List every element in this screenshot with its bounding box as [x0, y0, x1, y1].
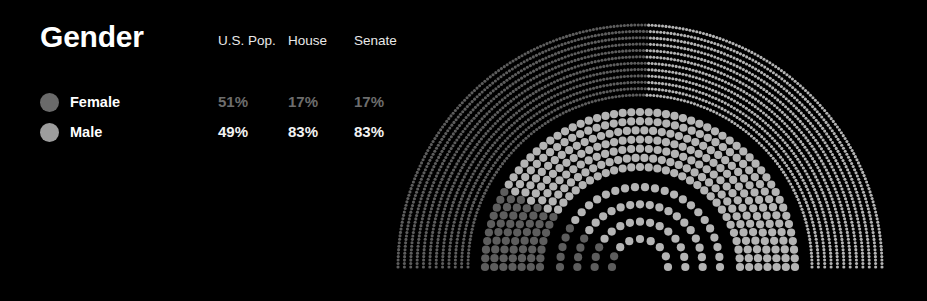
- arc-dot: [805, 148, 808, 151]
- arc-dot: [789, 170, 792, 173]
- arc-dot: [467, 113, 470, 116]
- arc-dot: [478, 84, 481, 87]
- arc-dot: [520, 160, 528, 168]
- arc-dot: [848, 191, 851, 194]
- arc-dot: [636, 218, 644, 226]
- arc-dot: [500, 91, 503, 94]
- arc-dot: [504, 104, 507, 107]
- arc-dot: [861, 255, 864, 258]
- arc-dot: [787, 135, 790, 138]
- arc-dot: [699, 263, 707, 271]
- arc-dot: [827, 234, 830, 237]
- arc-dot: [828, 175, 831, 178]
- arc-dot: [609, 77, 612, 80]
- arc-dot: [733, 107, 736, 110]
- arc-dot: [847, 156, 850, 159]
- arc-dot: [520, 100, 523, 103]
- arc-dot: [557, 58, 560, 61]
- arc-dot: [808, 191, 811, 194]
- arc-dot: [718, 206, 726, 214]
- arc-dot: [507, 195, 515, 203]
- arc-dot: [512, 90, 515, 93]
- arc-dot: [873, 241, 876, 244]
- arc-dot: [739, 52, 742, 55]
- arc-dot: [597, 33, 600, 36]
- arc-dot: [735, 79, 738, 82]
- arc-dot: [856, 217, 859, 220]
- arc-dot: [796, 117, 799, 120]
- arc-dot: [455, 245, 458, 248]
- arc-dot: [774, 88, 777, 91]
- arc-dot: [817, 255, 820, 258]
- arc-dot: [816, 153, 819, 156]
- arc-dot: [766, 75, 769, 78]
- arc-dot: [751, 59, 754, 62]
- arc-dot: [476, 143, 479, 146]
- arc-dot: [711, 89, 714, 92]
- arc-dot: [711, 82, 714, 85]
- arc-dot: [733, 49, 736, 52]
- arc-dot: [805, 172, 808, 175]
- arc-dot: [471, 204, 474, 207]
- arc-dot: [443, 234, 446, 237]
- arc-dot: [405, 234, 408, 237]
- arc-dot: [824, 221, 827, 224]
- arc-dot: [723, 182, 731, 190]
- arc-dot: [855, 262, 858, 265]
- arc-dot: [795, 107, 798, 110]
- arc-dot: [700, 58, 703, 61]
- arc-dot: [567, 54, 570, 57]
- arc-dot: [838, 165, 841, 168]
- arc-dot: [729, 176, 737, 184]
- arc-dot: [673, 52, 676, 55]
- arc-dot: [574, 39, 577, 42]
- arc-dot: [506, 94, 509, 97]
- arc-dot: [645, 163, 653, 171]
- arc-dot: [649, 155, 657, 163]
- arc-dot: [840, 131, 843, 134]
- arc-dot: [477, 176, 480, 179]
- arc-dot: [571, 107, 574, 110]
- arc-dot: [553, 94, 556, 97]
- arc-dot: [640, 74, 643, 77]
- arc-dot: [570, 47, 573, 50]
- arc-dot: [835, 245, 838, 248]
- arc-dot: [509, 212, 517, 220]
- arc-dot: [532, 107, 535, 110]
- arc-dot: [584, 49, 587, 52]
- arc-dot: [462, 191, 465, 194]
- arc-dot: [777, 125, 780, 128]
- arc-dot: [454, 178, 457, 181]
- arc-dot: [744, 245, 752, 253]
- arc-dot: [847, 143, 850, 146]
- arc-dot: [871, 197, 874, 200]
- arc-dot: [611, 187, 619, 195]
- arc-dot: [739, 228, 747, 236]
- arc-dot: [592, 93, 595, 96]
- arc-dot: [649, 49, 652, 52]
- arc-dot: [681, 86, 684, 89]
- arc-dot: [508, 69, 511, 72]
- arc-dot: [662, 166, 670, 174]
- arc-dot: [800, 112, 803, 115]
- arc-dot: [408, 190, 411, 193]
- arc-dot: [850, 162, 853, 165]
- arc-dot: [745, 70, 748, 73]
- arc-dot: [736, 65, 739, 68]
- arc-dot: [804, 89, 807, 92]
- arc-dot: [503, 65, 506, 68]
- arc-dot: [618, 95, 621, 98]
- arc-dot: [844, 137, 847, 140]
- arc-dot: [792, 189, 795, 192]
- arc-dot: [833, 234, 836, 237]
- arc-dot: [751, 66, 754, 69]
- arc-dot: [551, 67, 554, 70]
- arc-dot: [842, 147, 845, 150]
- arc-dot: [841, 171, 844, 174]
- arc-dot: [480, 109, 483, 112]
- arc-dot: [762, 104, 765, 107]
- arc-dot: [509, 254, 517, 262]
- arc-dot: [827, 147, 830, 150]
- arc-dot: [494, 113, 497, 116]
- arc-dot: [729, 69, 732, 72]
